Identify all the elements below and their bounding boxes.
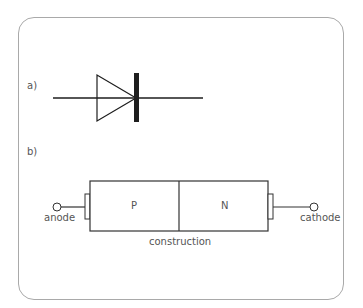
construction-caption: construction bbox=[149, 237, 211, 247]
panel-b-label: b) bbox=[27, 147, 37, 157]
cathode-label: cathode bbox=[300, 213, 341, 223]
diode-diagram-svg bbox=[0, 0, 363, 308]
pn-construction bbox=[53, 181, 318, 231]
p-region-label: P bbox=[131, 201, 137, 211]
panel-a-label: a) bbox=[27, 81, 37, 91]
diode-symbol-icon bbox=[53, 73, 203, 122]
n-region-label: N bbox=[221, 201, 228, 211]
anode-label: anode bbox=[44, 213, 75, 223]
